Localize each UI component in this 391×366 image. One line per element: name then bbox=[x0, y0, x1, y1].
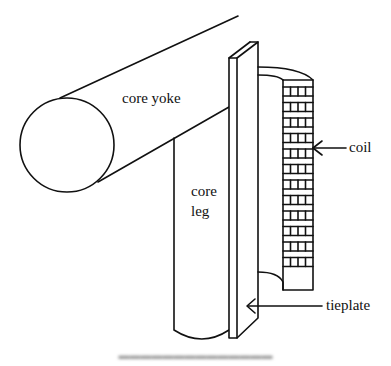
yoke-end-face bbox=[20, 98, 114, 192]
label-core-leg-line2: leg bbox=[191, 204, 209, 219]
core-leg bbox=[174, 138, 229, 339]
label-coil: coil bbox=[349, 140, 372, 155]
coil bbox=[258, 67, 313, 290]
leg-outline bbox=[174, 138, 229, 339]
transformer-core-diagram: core yoke core leg coil tieplate ▬▬▬▬▬▬▬… bbox=[0, 0, 391, 366]
label-tieplate: tieplate bbox=[326, 298, 370, 313]
tieplate bbox=[229, 42, 258, 338]
coil-winding-grid bbox=[283, 87, 313, 267]
label-core-yoke: core yoke bbox=[122, 91, 181, 106]
yoke-top-edge bbox=[60, 16, 238, 98]
yoke-bottom-edge bbox=[98, 107, 229, 182]
figure-caption: ▬▬▬▬▬▬▬▬▬▬▬▬▬▬ bbox=[0, 349, 391, 361]
label-core-leg-line1: core bbox=[191, 184, 217, 199]
coil-pointer-arrow bbox=[313, 141, 346, 155]
